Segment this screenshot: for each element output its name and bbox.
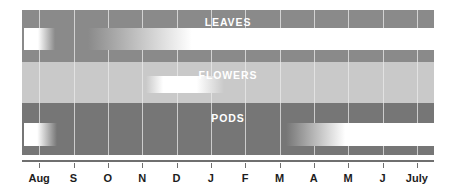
bar-segment — [146, 76, 224, 93]
x-axis-tick — [142, 163, 143, 168]
x-axis-tick-label: S — [70, 172, 77, 184]
x-axis-tick — [211, 163, 212, 168]
x-axis-tick-label: M — [344, 172, 353, 184]
x-axis-tick-label: N — [138, 172, 146, 184]
gridline — [245, 10, 246, 62]
x-axis-tick — [383, 163, 384, 168]
gridline — [417, 103, 418, 155]
gridline — [74, 103, 75, 155]
x-axis-tick-label: Aug — [28, 172, 49, 184]
band-label-pods: PODS — [22, 112, 434, 124]
gridline — [74, 10, 75, 62]
x-axis-tick-label: O — [104, 172, 113, 184]
gridline — [383, 62, 384, 103]
gridline — [108, 10, 109, 62]
x-axis-tick-label: J — [379, 172, 385, 184]
x-axis-line — [22, 160, 434, 162]
bars-flowers — [22, 62, 434, 103]
gridline — [348, 62, 349, 103]
bar-segment — [286, 123, 434, 146]
gridline — [39, 103, 40, 155]
gridline — [74, 62, 75, 103]
gridline — [211, 10, 212, 62]
gridline — [39, 10, 40, 62]
band-pods: PODS — [22, 103, 434, 155]
bar-segment — [24, 123, 57, 146]
gridline — [108, 62, 109, 103]
x-axis-tick — [245, 163, 246, 168]
bars-pods — [22, 103, 434, 155]
gridline — [348, 103, 349, 155]
gridline — [280, 10, 281, 62]
band-label-leaves: LEAVES — [22, 16, 434, 28]
band-label-flowers: FLOWERS — [22, 69, 434, 81]
gridline — [348, 10, 349, 62]
x-axis-tick-label: M — [275, 172, 284, 184]
x-axis-tick — [348, 163, 349, 168]
x-axis-tick-label: July — [406, 172, 428, 184]
phenology-chart: LEAVES FLOWERS PODS AugSONDJFMAMJJuly — [0, 0, 456, 194]
gridline — [245, 103, 246, 155]
gridline — [177, 103, 178, 155]
x-axis-tick-label: D — [173, 172, 181, 184]
x-axis-tick — [417, 163, 418, 168]
x-axis-tick — [39, 163, 40, 168]
gridline — [314, 10, 315, 62]
band-flowers: FLOWERS — [22, 62, 434, 103]
gridline — [211, 62, 212, 103]
gridline — [417, 62, 418, 103]
x-axis-tick — [314, 163, 315, 168]
gridline — [417, 10, 418, 62]
bar-segment — [24, 28, 55, 50]
gridline — [280, 62, 281, 103]
gridline — [245, 62, 246, 103]
gridline — [177, 62, 178, 103]
gridline — [383, 103, 384, 155]
bars-leaves — [22, 10, 434, 62]
gridline — [142, 62, 143, 103]
gridlines-pods — [22, 103, 434, 155]
x-axis-tick-label: J — [208, 172, 214, 184]
bar-segment — [88, 28, 434, 50]
gridline — [280, 103, 281, 155]
gridline — [39, 62, 40, 103]
gridlines-leaves — [22, 10, 434, 62]
gridline — [142, 10, 143, 62]
x-axis-tick — [74, 163, 75, 168]
gridline — [177, 10, 178, 62]
x-axis-tick — [108, 163, 109, 168]
x-axis-tick-label: F — [242, 172, 249, 184]
gridline — [314, 62, 315, 103]
x-axis-tick — [280, 163, 281, 168]
plot-area: LEAVES FLOWERS PODS — [22, 10, 434, 155]
gridline — [108, 103, 109, 155]
band-leaves: LEAVES — [22, 10, 434, 62]
gridline — [383, 10, 384, 62]
gridline — [142, 103, 143, 155]
gridline — [314, 103, 315, 155]
x-axis-tick-label: A — [310, 172, 318, 184]
gridline — [211, 103, 212, 155]
x-axis-tick — [177, 163, 178, 168]
gridlines-flowers — [22, 62, 434, 103]
